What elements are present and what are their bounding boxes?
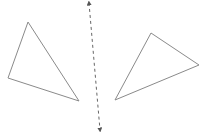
triangle-left (8, 22, 79, 101)
reflection-diagram (0, 0, 204, 134)
triangle-right (115, 33, 199, 100)
reflection-line (89, 3, 100, 130)
